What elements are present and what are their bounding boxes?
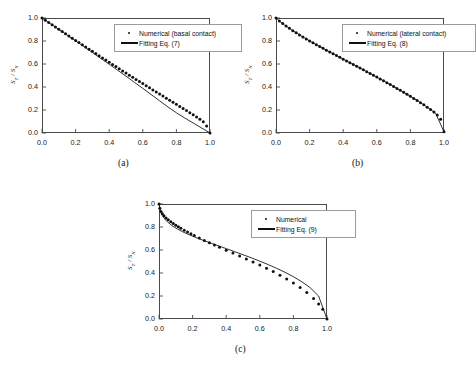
- x-tick-label: 1.0: [198, 138, 222, 147]
- y-tick-label: 0.4: [16, 82, 38, 91]
- y-axis-label: ST / SN: [126, 230, 135, 290]
- legend-item: Numerical: [256, 214, 350, 224]
- x-tick-label: 0.4: [214, 324, 238, 333]
- y-tick-label: 0.0: [16, 128, 38, 137]
- y-tick-label: 0.2: [133, 291, 155, 300]
- y-axis-label: ST / SN: [243, 44, 252, 104]
- y-tick-label: 0.2: [250, 105, 272, 114]
- legend: Numerical (lateral contact)Fitting Eq. (…: [342, 24, 476, 52]
- x-tick-label: 1.0: [432, 138, 456, 147]
- y-tick-label: 0.6: [133, 245, 155, 254]
- y-tick-label: 1.0: [16, 13, 38, 22]
- x-tick-label: 0.0: [147, 324, 171, 333]
- x-tick-label: 0.6: [365, 138, 389, 147]
- y-tick-label: 1.0: [250, 13, 272, 22]
- x-tick-label: 0.6: [131, 138, 155, 147]
- legend-label: Fitting Eq. (7): [139, 39, 180, 48]
- x-tick-label: 0.2: [298, 138, 322, 147]
- x-tick-label: 0.4: [331, 138, 355, 147]
- legend-item: Fitting Eq. (9): [256, 224, 350, 234]
- legend-label: Numerical (lateral contact): [367, 29, 446, 38]
- legend-marker-icon: [347, 32, 367, 35]
- x-tick-label: 0.8: [281, 324, 305, 333]
- legend: Numerical (basal contact)Fitting Eq. (7): [114, 24, 242, 52]
- panel-caption: (c): [235, 344, 246, 354]
- x-tick-label: 0.0: [30, 138, 54, 147]
- legend-marker-icon: [256, 218, 276, 221]
- panel-caption: (b): [352, 158, 363, 168]
- y-tick-label: 0.4: [250, 82, 272, 91]
- y-tick-label: 0.6: [250, 59, 272, 68]
- x-tick-label: 0.8: [164, 138, 188, 147]
- x-tick-label: 0.6: [248, 324, 272, 333]
- y-tick-label: 0.0: [133, 314, 155, 323]
- legend: NumericalFitting Eq. (9): [251, 210, 356, 238]
- y-tick-label: 0.8: [16, 36, 38, 45]
- legend-marker-icon: [119, 32, 139, 35]
- legend-label: Fitting Eq. (8): [367, 39, 408, 48]
- x-tick-label: 0.2: [64, 138, 88, 147]
- x-tick-label: 0.2: [181, 324, 205, 333]
- line-icon: [349, 42, 366, 43]
- dot-icon: [128, 32, 131, 35]
- legend-item: Numerical (basal contact): [119, 28, 236, 38]
- legend-item: Numerical (lateral contact): [347, 28, 470, 38]
- y-tick-label: 0.6: [16, 59, 38, 68]
- y-tick-label: 0.8: [133, 222, 155, 231]
- legend-item: Fitting Eq. (7): [119, 38, 236, 48]
- line-icon: [258, 228, 275, 229]
- x-tick-label: 0.0: [264, 138, 288, 147]
- x-tick-label: 0.8: [398, 138, 422, 147]
- legend-label: Numerical (basal contact): [139, 29, 216, 38]
- legend-label: Numerical: [276, 215, 307, 224]
- y-tick-label: 0.0: [250, 128, 272, 137]
- y-tick-label: 0.2: [16, 105, 38, 114]
- line-icon: [121, 42, 138, 43]
- x-tick-label: 1.0: [315, 324, 339, 333]
- legend-line-icon: [119, 42, 139, 43]
- legend-label: Fitting Eq. (9): [276, 225, 317, 234]
- dot-icon: [265, 218, 268, 221]
- dot-icon: [356, 32, 359, 35]
- y-tick-label: 1.0: [133, 199, 155, 208]
- y-tick-label: 0.8: [250, 36, 272, 45]
- y-axis-label: ST / SN: [9, 44, 18, 104]
- panel-caption: (a): [118, 158, 129, 168]
- legend-line-icon: [256, 228, 276, 229]
- x-tick-label: 0.4: [97, 138, 121, 147]
- legend-line-icon: [347, 42, 367, 43]
- legend-item: Fitting Eq. (8): [347, 38, 470, 48]
- y-tick-label: 0.4: [133, 268, 155, 277]
